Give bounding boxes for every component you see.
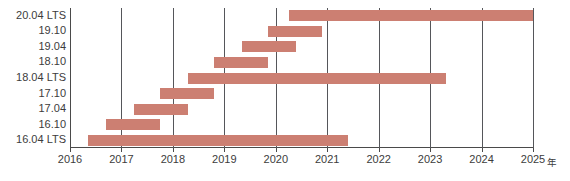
- tick-mark-2024: [482, 148, 483, 152]
- y-axis-label-20.04-lts: 20.04 LTS: [2, 10, 66, 21]
- bar-19.04: [242, 41, 296, 52]
- y-axis-label-16.10: 16.10: [2, 119, 66, 130]
- x-axis-label-2025: 2025: [521, 153, 545, 165]
- bar-18.04-lts: [188, 73, 445, 84]
- y-axis-label-19.04: 19.04: [2, 41, 66, 52]
- y-axis-label-18.10: 18.10: [2, 56, 66, 67]
- tick-mark-2023: [430, 148, 431, 152]
- y-axis-label-18.04-lts: 18.04 LTS: [2, 72, 66, 83]
- bar-19.10: [268, 26, 322, 37]
- x-axis-label-2021: 2021: [315, 153, 339, 165]
- tick-mark-2017: [121, 148, 122, 152]
- tick-mark-2018: [173, 148, 174, 152]
- x-axis-label-2020: 2020: [264, 153, 288, 165]
- tick-mark-2020: [276, 148, 277, 152]
- bar-16.04-lts: [88, 135, 348, 146]
- x-axis-label-2016: 2016: [58, 153, 82, 165]
- gantt-chart: 20.04 LTS19.1019.0418.1018.04 LTS17.1017…: [0, 0, 570, 181]
- tick-mark-2025: [533, 148, 534, 152]
- x-axis-label-2024: 2024: [469, 153, 493, 165]
- tick-mark-2022: [379, 148, 380, 152]
- x-axis-label-2022: 2022: [366, 153, 390, 165]
- bar-16.10: [106, 119, 160, 130]
- bar-17.04: [134, 104, 188, 115]
- tick-mark-2019: [224, 148, 225, 152]
- x-axis-label-2023: 2023: [418, 153, 442, 165]
- x-axis-label-2019: 2019: [212, 153, 236, 165]
- x-axis-unit-label: 年: [547, 155, 557, 169]
- x-axis-label-2017: 2017: [109, 153, 133, 165]
- tick-mark-2021: [327, 148, 328, 152]
- gridline-2018: [173, 8, 174, 148]
- y-axis-label-17.04: 17.04: [2, 103, 66, 114]
- gridline-2024: [482, 8, 483, 148]
- y-axis-label-19.10: 19.10: [2, 25, 66, 36]
- y-axis-category-labels: 20.04 LTS19.1019.0418.1018.04 LTS17.1017…: [0, 8, 66, 148]
- x-axis-label-2018: 2018: [161, 153, 185, 165]
- gridline-2025: [533, 8, 534, 148]
- bar-17.10: [160, 88, 214, 99]
- y-axis-label-17.10: 17.10: [2, 88, 66, 99]
- y-axis-label-16.04-lts: 16.04 LTS: [2, 134, 66, 145]
- bar-18.10: [214, 57, 268, 68]
- bar-20.04-lts: [289, 10, 533, 21]
- tick-mark-2016: [70, 148, 71, 152]
